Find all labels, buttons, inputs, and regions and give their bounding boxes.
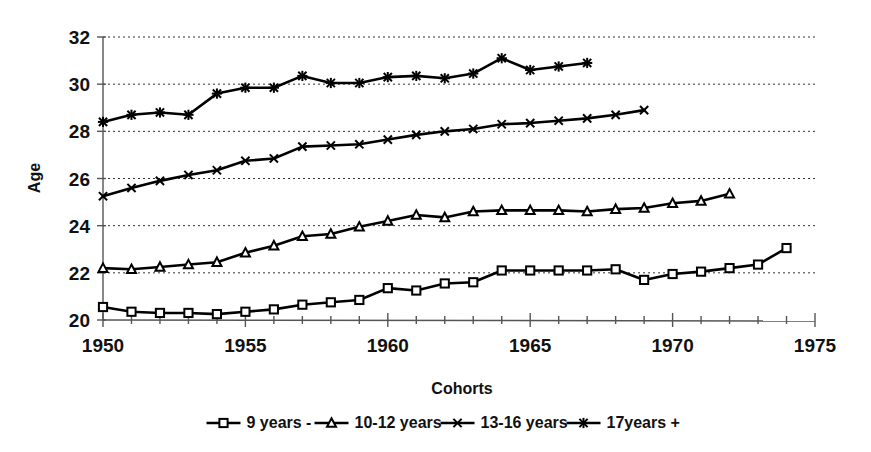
data-point	[297, 71, 307, 81]
data-point	[441, 279, 449, 287]
data-point	[184, 309, 192, 317]
data-point	[98, 117, 108, 127]
data-point	[183, 110, 193, 120]
data-point	[213, 310, 221, 318]
data-point	[612, 265, 620, 273]
x-tick-label: 1975	[794, 335, 837, 356]
y-tick-label: 22	[69, 263, 90, 284]
data-point	[582, 58, 592, 68]
data-point	[555, 266, 563, 274]
data-point	[384, 284, 392, 292]
data-point	[298, 301, 306, 309]
data-point	[99, 303, 107, 311]
data-point	[270, 305, 278, 313]
data-point	[725, 264, 733, 272]
data-point	[411, 71, 421, 81]
data-point	[355, 296, 363, 304]
data-point	[497, 53, 507, 63]
data-point	[156, 309, 164, 317]
x-tick-label: 1965	[509, 335, 552, 356]
y-tick-label: 28	[69, 121, 90, 142]
data-point	[754, 260, 762, 268]
data-point	[525, 65, 535, 75]
data-point	[440, 73, 450, 83]
data-point	[240, 83, 250, 93]
data-point	[127, 308, 135, 316]
data-point	[383, 72, 393, 82]
data-point	[155, 107, 165, 117]
data-point	[697, 268, 705, 276]
x-tick-label: 1950	[82, 335, 124, 356]
data-point	[554, 61, 564, 71]
legend-label: 13-16 years	[481, 414, 568, 431]
data-point	[269, 83, 279, 93]
data-point	[126, 110, 136, 120]
data-point	[468, 68, 478, 78]
legend-label: 10-12 years	[355, 414, 442, 431]
data-point	[469, 278, 477, 286]
y-axis-title: Age	[26, 163, 43, 193]
y-tick-label: 24	[69, 216, 91, 237]
chart-container: 20222426283032 195019551960196519701975 …	[0, 0, 871, 452]
data-point	[212, 88, 222, 98]
x-axis-line	[103, 320, 815, 321]
data-point	[526, 266, 534, 274]
legend-label: 9 years -	[247, 414, 312, 431]
data-point	[354, 78, 364, 88]
data-point	[498, 266, 506, 274]
y-tick-label: 30	[69, 74, 90, 95]
legend-marker	[578, 418, 588, 428]
x-axis-title: Cohorts	[431, 380, 492, 397]
line-chart-figure: 20222426283032 195019551960196519701975 …	[0, 0, 871, 452]
data-point	[327, 298, 335, 306]
data-point	[326, 78, 336, 88]
data-point	[640, 276, 648, 284]
y-tick-label: 20	[69, 310, 90, 331]
x-tick-label: 1970	[651, 335, 693, 356]
legend-marker	[219, 419, 227, 427]
data-point	[782, 244, 790, 252]
y-tick-label: 32	[69, 27, 90, 48]
data-point	[241, 308, 249, 316]
legend-label: 17years +	[607, 414, 680, 431]
data-point	[669, 270, 677, 278]
y-tick-label: 26	[69, 169, 90, 190]
x-tick-label: 1960	[367, 335, 409, 356]
data-point	[412, 286, 420, 294]
x-tick-label: 1955	[224, 335, 267, 356]
data-point	[583, 266, 591, 274]
